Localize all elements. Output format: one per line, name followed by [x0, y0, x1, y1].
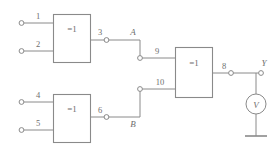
pin-label-8: 8 [222, 61, 226, 71]
pin-9-terminal[interactable] [138, 56, 143, 61]
pin-6-terminal[interactable] [104, 115, 109, 120]
gate-3-label: =1 [189, 58, 199, 68]
pin-label-1: 1 [36, 11, 40, 21]
pin-label-9: 9 [155, 46, 159, 56]
pin-label-2: 2 [36, 39, 40, 49]
circuit-diagram-canvas: =1 =1 =1 1 2 3 4 5 6 9 10 8 A B Y V [0, 0, 278, 146]
pin-label-5: 5 [36, 118, 40, 128]
pin-8-terminal[interactable] [229, 71, 234, 76]
pin-label-3: 3 [98, 27, 102, 37]
input-terminal-2[interactable] [19, 49, 24, 54]
pin-label-4: 4 [36, 90, 41, 100]
gate-1-label: =1 [67, 24, 77, 34]
pin-10-terminal[interactable] [138, 87, 143, 92]
input-terminal-4[interactable] [19, 100, 24, 105]
gate-1-body [54, 15, 91, 63]
node-label-b: B [130, 119, 136, 129]
input-terminal-5[interactable] [19, 128, 24, 133]
node-label-y: Y [261, 58, 267, 68]
pin-label-10: 10 [156, 77, 165, 87]
node-label-a: A [129, 27, 136, 37]
gate-3-body [176, 48, 213, 98]
output-terminal-y[interactable] [259, 71, 264, 76]
pin-label-6: 6 [98, 105, 102, 115]
input-terminal-1[interactable] [19, 21, 24, 26]
gate-2-label: =1 [67, 104, 77, 114]
pin-3-terminal[interactable] [104, 38, 109, 43]
gate-2-body [54, 95, 91, 143]
